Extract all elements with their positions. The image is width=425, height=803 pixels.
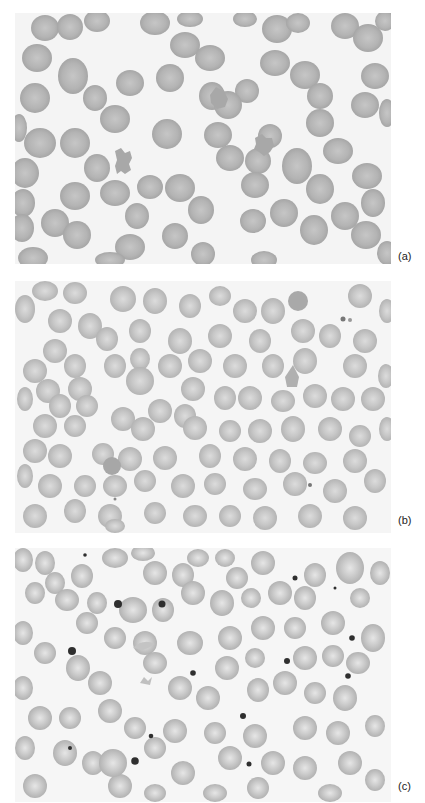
panel-label-b: (b) — [398, 514, 411, 526]
blood-smear-image-a — [15, 13, 391, 264]
micrograph-panel-c — [15, 548, 391, 802]
blood-smear-image-b — [15, 281, 391, 533]
blood-smear-image-c — [15, 548, 391, 802]
panel-label-c: (c) — [398, 780, 411, 792]
micrograph-panel-a — [15, 13, 391, 264]
micrograph-panel-b — [15, 281, 391, 533]
panel-label-a: (a) — [398, 250, 411, 262]
